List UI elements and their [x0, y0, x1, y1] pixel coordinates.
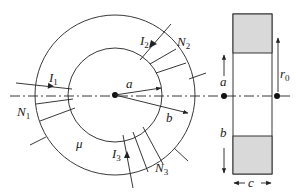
- winding-turn: [36, 99, 73, 104]
- section-axis-point-right: [274, 93, 280, 99]
- label-i3: I3: [111, 146, 121, 163]
- winding-lead: [189, 73, 206, 79]
- toroid-diagram: I1 I2 I3 N1 N2 N3 a b μ a b c r0: [0, 0, 296, 193]
- label-permeability: μ: [75, 136, 83, 151]
- label-i2: I2: [139, 33, 149, 50]
- label-mean-radius-r0: r0: [280, 66, 290, 83]
- current-lead-i3: [123, 135, 133, 188]
- winding-turn: [133, 132, 148, 172]
- label-section-a: a: [220, 74, 227, 89]
- winding-turn: [40, 108, 75, 121]
- radius-b-arrow: [115, 95, 188, 113]
- toroid-cross-section: a b c r0: [220, 14, 290, 190]
- label-n2: N2: [176, 34, 190, 51]
- label-section-width-c: c: [248, 175, 254, 190]
- section-axis-point-left: [221, 93, 227, 99]
- i3-arrow-head: [124, 151, 130, 158]
- label-n3: N3: [154, 160, 169, 177]
- core-section-top: [233, 14, 272, 53]
- winding-n3: [123, 127, 188, 188]
- radius-a-arrow: [115, 88, 161, 95]
- winding-lead: [30, 137, 46, 145]
- label-radius-a: a: [126, 76, 133, 91]
- winding-n2: [140, 24, 206, 79]
- label-section-b: b: [220, 125, 227, 140]
- label-i1: I1: [48, 70, 58, 87]
- winding-turn: [156, 63, 186, 73]
- label-radius-b: b: [166, 110, 173, 125]
- winding-lead: [174, 148, 188, 161]
- core-section-bottom: [233, 136, 272, 174]
- winding-turn: [150, 49, 176, 64]
- label-n1: N1: [16, 104, 30, 121]
- current-lead-i1: [16, 83, 72, 89]
- winding-turn: [143, 127, 163, 164]
